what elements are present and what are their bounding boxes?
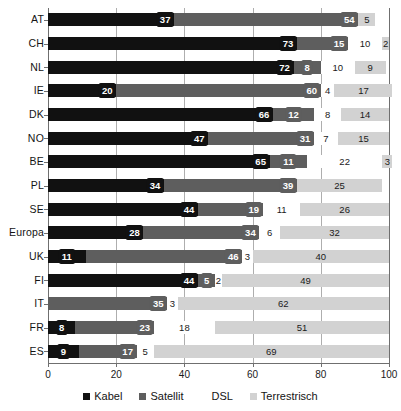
value-label-dsl: 10: [360, 38, 371, 49]
legend-swatch-dsl-icon: [200, 393, 207, 400]
x-tick-label: 20: [111, 369, 122, 381]
value-label-terrestrisch: 17: [358, 85, 369, 96]
value-label-dsl: 2: [216, 275, 221, 286]
bar-row: 7315102: [48, 37, 389, 50]
bar-segment-kabel: [48, 108, 273, 121]
category-label-pl: PL: [0, 180, 44, 191]
value-label-dsl: 7: [323, 133, 328, 144]
category-label-be: BE: [0, 156, 44, 167]
value-label-terrestrisch: 69: [266, 346, 277, 357]
value-label-dsl: 22: [339, 156, 350, 167]
value-label-kabel: 11: [59, 249, 75, 264]
x-axis-line: [48, 363, 389, 364]
bar-segment-kabel: [48, 37, 297, 50]
bar-row: 37545: [48, 13, 389, 26]
bar-row: 6511223: [48, 155, 389, 168]
value-label-terrestrisch: 9: [368, 62, 373, 73]
bar-segment-kabel: [48, 155, 270, 168]
category-label-se: SE: [0, 204, 44, 215]
category-label-at: AT: [0, 14, 44, 25]
value-label-kabel: 65: [252, 154, 269, 169]
legend-item-terrestrisch[interactable]: Terrestrisch: [250, 390, 318, 402]
value-label-satellit: 12: [285, 107, 302, 122]
x-tick: [389, 363, 390, 367]
value-label-kabel: 20: [99, 83, 116, 98]
value-label-dsl: 10: [333, 62, 344, 73]
plot-wrapper: ATCHNLIEDKNOBEPLSEEuropaUKFIITFRES 37545…: [0, 0, 401, 372]
value-label-satellit: 19: [246, 202, 263, 217]
value-label-terrestrisch: 26: [339, 204, 350, 215]
x-tick-label: 0: [45, 369, 51, 381]
bar-row: 2834632: [48, 226, 389, 239]
gridline-100: [389, 8, 390, 363]
legend-item-dsl[interactable]: DSL: [200, 390, 232, 402]
category-label-dk: DK: [0, 109, 44, 120]
category-label-nl: NL: [0, 62, 44, 73]
value-label-terrestrisch: 25: [334, 180, 345, 191]
bar-row: 44191126: [48, 203, 389, 216]
value-label-terrestrisch: 62: [278, 298, 289, 309]
legend-swatch-kabel-icon: [83, 393, 90, 400]
value-label-kabel: 28: [126, 225, 143, 240]
value-label-terrestrisch: 15: [358, 133, 369, 144]
value-label-satellit: 5: [201, 273, 212, 288]
value-label-dsl: 3: [245, 251, 250, 262]
plot-area: 3754573151027281092060417661281447317156…: [48, 8, 389, 363]
stacked-bar-chart: ATCHNLIEDKNOBEPLSEEuropaUKFIITFRES 37545…: [0, 0, 401, 411]
bar-row: 445249: [48, 274, 389, 287]
value-label-satellit: 15: [331, 36, 348, 51]
legend-item-kabel[interactable]: Kabel: [83, 390, 122, 402]
value-label-terrestrisch: 5: [364, 14, 369, 25]
bar-segment-kabel: [48, 13, 174, 26]
legend-swatch-terrestrisch-icon: [250, 393, 257, 400]
x-tick-label: 60: [247, 369, 258, 381]
x-tick: [321, 363, 322, 367]
bar-row: 6612814: [48, 108, 389, 121]
bar-segment-kabel: [48, 61, 294, 74]
value-label-terrestrisch: 40: [316, 251, 327, 262]
bar-segment-satellit: [174, 13, 358, 26]
bar-row: 1146340: [48, 250, 389, 263]
value-label-kabel: 72: [276, 60, 293, 75]
value-label-kabel: 9: [58, 344, 69, 359]
legend-item-satellit[interactable]: Satellit: [139, 390, 183, 402]
legend-label: DSL: [211, 390, 232, 402]
value-label-dsl: 6: [267, 227, 272, 238]
x-tick: [184, 363, 185, 367]
bar-row: 35362: [48, 297, 389, 310]
bar-segment-kabel: [48, 203, 198, 216]
category-label-it: IT: [0, 298, 44, 309]
category-label-uk: UK: [0, 251, 44, 262]
value-label-kabel: 47: [191, 131, 208, 146]
bar-row: 2060417: [48, 84, 389, 97]
value-label-satellit: 54: [341, 12, 358, 27]
legend-label: Terrestrisch: [261, 390, 318, 402]
x-tick: [253, 363, 254, 367]
bar-row: 8231851: [48, 321, 389, 334]
category-label-ch: CH: [0, 38, 44, 49]
value-label-kabel: 66: [256, 107, 273, 122]
value-label-dsl: 18: [179, 322, 190, 333]
category-axis: ATCHNLIEDKNOBEPLSEEuropaUKFIITFRES: [0, 8, 44, 363]
value-label-terrestrisch: 32: [329, 227, 340, 238]
value-label-satellit: 11: [280, 154, 296, 169]
value-label-terrestrisch: 49: [300, 275, 311, 286]
bar-segment-kabel: [48, 132, 208, 145]
value-label-kabel: 8: [56, 320, 67, 335]
value-label-dsl: 5: [143, 346, 148, 357]
x-tick-label: 100: [381, 369, 398, 381]
chart-legend: KabelSatellitDSLTerrestrisch: [0, 390, 401, 402]
legend-label: Kabel: [94, 390, 122, 402]
x-tick: [48, 363, 49, 367]
bar-segment-satellit: [164, 179, 297, 192]
category-label-ie: IE: [0, 85, 44, 96]
legend-label: Satellit: [150, 390, 183, 402]
bar-segment-kabel: [48, 274, 198, 287]
value-label-satellit: 17: [119, 344, 136, 359]
legend-swatch-satellit-icon: [139, 393, 146, 400]
category-label-no: NO: [0, 133, 44, 144]
value-label-dsl: 4: [325, 85, 330, 96]
bar-row: 4731715: [48, 132, 389, 145]
bar-segment-satellit: [116, 84, 321, 97]
category-label-fr: FR: [0, 322, 44, 333]
